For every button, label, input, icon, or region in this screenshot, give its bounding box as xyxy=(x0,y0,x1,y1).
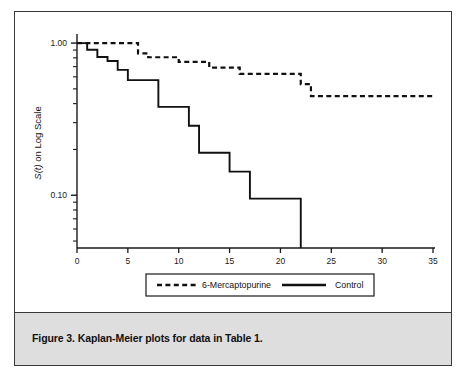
legend-label-control: Control xyxy=(335,280,363,290)
x-tick-label: 15 xyxy=(225,256,235,266)
x-tick-label: 0 xyxy=(75,256,80,266)
series-mercaptopurine xyxy=(77,43,433,96)
figure-caption: Figure 3. Kaplan-Meier plots for data in… xyxy=(32,332,263,344)
y-tick-label: 0.10 xyxy=(50,190,67,200)
figure-frame: 1.000.1005101520253035t (in weeks)S(t) o… xyxy=(14,11,452,366)
x-tick-label: 35 xyxy=(428,256,438,266)
kaplan-meier-chart: 1.000.1005101520253035t (in weeks)S(t) o… xyxy=(15,12,451,312)
x-tick-label: 5 xyxy=(125,256,130,266)
y-axis-title: S(t) on Log Scale xyxy=(32,106,43,179)
caption-band: Figure 3. Kaplan-Meier plots for data in… xyxy=(15,312,451,365)
x-tick-label: 10 xyxy=(174,256,184,266)
legend-label-mercaptopurine: 6-Mercaptopurine xyxy=(202,280,271,290)
x-tick-label: 20 xyxy=(276,256,286,266)
y-tick-label: 1.00 xyxy=(50,38,67,48)
plot-region: 1.000.1005101520253035t (in weeks)S(t) o… xyxy=(15,12,451,312)
x-tick-label: 25 xyxy=(327,256,337,266)
x-tick-label: 30 xyxy=(377,256,387,266)
